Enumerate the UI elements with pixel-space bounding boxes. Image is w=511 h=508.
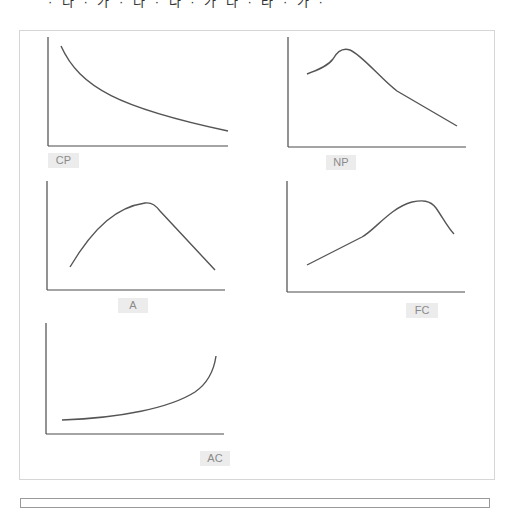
label-ac: AC bbox=[200, 451, 230, 466]
plot-a bbox=[47, 181, 225, 290]
plot-np bbox=[288, 37, 466, 147]
curve-fc bbox=[307, 201, 454, 265]
plot-fc bbox=[287, 181, 465, 292]
curve-ac bbox=[62, 356, 216, 420]
curve-cp bbox=[61, 46, 228, 131]
curve-np bbox=[307, 49, 457, 126]
label-a: A bbox=[118, 298, 148, 313]
next-box-frame bbox=[20, 498, 490, 508]
plot-cp bbox=[48, 37, 228, 146]
label-np: NP bbox=[326, 155, 356, 170]
label-cp: CP bbox=[48, 153, 79, 168]
plot-ac bbox=[46, 323, 224, 434]
label-fc: FC bbox=[406, 303, 438, 318]
curve-a bbox=[70, 203, 215, 270]
